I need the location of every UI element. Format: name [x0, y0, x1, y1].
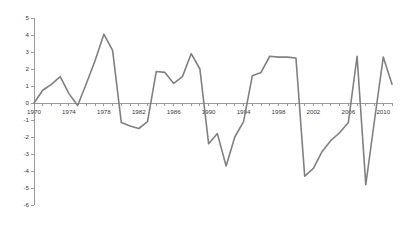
y-tick-label: 3	[26, 48, 30, 55]
y-tick-label: -6	[23, 201, 29, 208]
x-tick-label: 1994	[237, 108, 251, 115]
x-tick-label: 1998	[272, 108, 286, 115]
y-tick-label: -4	[23, 167, 29, 174]
x-tick-label: 1982	[132, 108, 146, 115]
x-tick-label: 2010	[376, 108, 390, 115]
x-axis-tick-labels: 1970197419781982198619901994199820022006…	[27, 108, 391, 115]
y-tick-label: -2	[23, 133, 29, 140]
x-tick-label: 2002	[307, 108, 321, 115]
y-tick-label: -1	[23, 116, 29, 123]
chart-canvas: 543210-1-2-3-4-5-6 197019741978198219861…	[0, 0, 405, 238]
y-tick-label: 1	[26, 82, 30, 89]
x-tick-label: 1974	[62, 108, 76, 115]
x-tick-label: 2006	[341, 108, 355, 115]
x-tick-label: 1970	[27, 108, 41, 115]
line-chart: 543210-1-2-3-4-5-6 197019741978198219861…	[0, 0, 405, 238]
y-tick-label: -3	[23, 150, 29, 157]
x-axis-group: 1970197419781982198619901994199820022006…	[27, 103, 392, 115]
y-tick-label: -5	[23, 184, 29, 191]
x-tick-label: 1978	[97, 108, 111, 115]
y-tick-label: 4	[26, 31, 30, 38]
x-tick-label: 1986	[167, 108, 181, 115]
y-tick-label: 5	[26, 14, 30, 21]
y-tick-label: 0	[26, 99, 30, 106]
y-tick-label: 2	[26, 65, 30, 72]
